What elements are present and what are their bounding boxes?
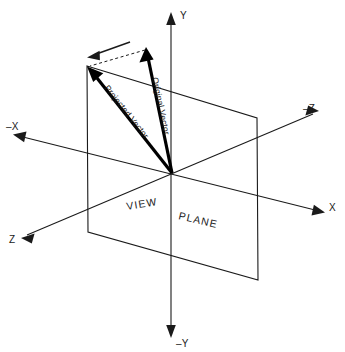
axis-label-x-negative: –X (6, 121, 19, 132)
axis-label-x: X (329, 202, 336, 213)
axis-label-y-negative: –Y (176, 338, 189, 349)
axis-label-z: Z (9, 234, 15, 245)
axis-label-y: Y (180, 10, 187, 21)
y-positive-arrowhead (166, 12, 176, 25)
projection-direction-line (95, 42, 130, 55)
construction-group (87, 42, 145, 66)
vector-projection-diagram: Vector projection onto the view plane Y … (0, 0, 345, 352)
axes-group (13, 12, 325, 338)
original-vector-arrowhead (139, 47, 153, 63)
x-negative-arrowhead (13, 132, 27, 143)
projection-direction-arrowhead (87, 51, 100, 60)
y-negative-arrowhead (166, 325, 176, 338)
x-positive-arrowhead (312, 205, 326, 216)
axis-label-z-negative: –Z (303, 103, 315, 114)
diagram-canvas: Vector projection onto the view plane Y … (0, 0, 345, 352)
